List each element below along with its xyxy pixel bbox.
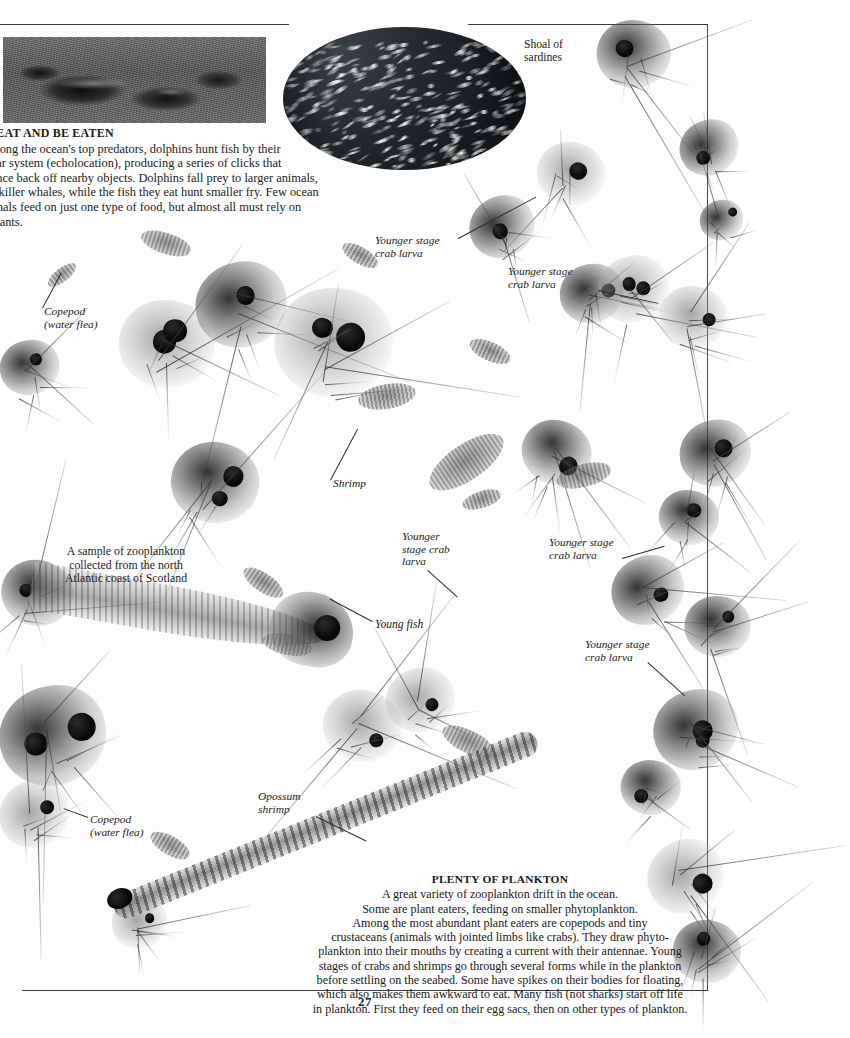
sardine [431, 59, 447, 65]
sardine [339, 107, 354, 114]
sardine [389, 48, 406, 56]
leader-crab-larva-mid [427, 570, 457, 598]
sardine [421, 40, 429, 46]
page-number: 27 [0, 994, 730, 1010]
sardine [480, 80, 491, 88]
sardine [392, 96, 405, 100]
sardine [332, 160, 340, 166]
sample-caption: A sample of zooplankton collected from t… [36, 545, 216, 586]
rule-top-right [468, 24, 708, 25]
plankton-specimen-capsule [461, 323, 519, 381]
sardine [426, 91, 438, 97]
sardine [443, 143, 460, 154]
sardine [371, 128, 387, 135]
sardine [389, 85, 406, 91]
sardine [516, 159, 526, 167]
sardine [487, 86, 498, 92]
sardine [470, 42, 482, 48]
specimen-spine [38, 827, 42, 959]
article-line: unce back off nearby objects. Dolphins f… [0, 171, 330, 186]
sardine [474, 69, 491, 77]
plankton-specimen-capsule [353, 363, 420, 430]
sardine [464, 160, 478, 168]
sardine [512, 98, 526, 108]
sardine [351, 115, 366, 123]
sardine [420, 158, 436, 168]
sardine [334, 111, 350, 117]
sardine [504, 129, 515, 135]
sardine [398, 148, 414, 156]
sardine [492, 113, 506, 119]
sardine [318, 86, 335, 96]
sardine [515, 139, 526, 150]
sardine [290, 113, 298, 117]
label-copepod-top: Copepod (water flea) [44, 305, 97, 330]
sardine [297, 69, 309, 74]
sardine [324, 53, 342, 62]
sardine [306, 106, 321, 115]
sardine [501, 42, 509, 46]
specimen-capsule-body [466, 334, 514, 369]
sardine [449, 102, 466, 112]
sardine [347, 133, 359, 142]
sardine [397, 153, 408, 162]
sardine [500, 87, 515, 98]
sardine [492, 150, 509, 161]
sardine [479, 43, 491, 47]
plenty-line: crustaceans (animals with jointed limbs … [300, 930, 700, 944]
sardine [427, 126, 442, 133]
sardine [460, 41, 475, 50]
sardine [465, 75, 474, 81]
specimen-capsule-body [460, 485, 503, 513]
sardine [334, 72, 349, 81]
sardine [391, 108, 401, 115]
sardine [428, 109, 446, 116]
article-line: e killer whales, while the fish they eat… [0, 185, 330, 200]
specimen-capsule-body [44, 259, 80, 291]
sardine [306, 67, 322, 73]
sardine [368, 122, 377, 128]
sardine [384, 45, 399, 52]
plenty-line: stages of crabs and shrimps go through s… [300, 959, 700, 973]
sardine [454, 154, 471, 161]
sardine [448, 109, 457, 116]
sardine [381, 70, 397, 79]
sardine [430, 92, 443, 101]
sardine [321, 92, 335, 101]
sardine [394, 77, 406, 82]
sardine [495, 126, 509, 131]
sardine [321, 41, 337, 51]
sardine [454, 151, 469, 157]
sardine [444, 70, 459, 76]
article-line: mong the ocean's top predators, dolphins… [0, 142, 330, 157]
sardine [460, 108, 471, 114]
sardine [286, 118, 298, 125]
sardine [404, 74, 416, 81]
sardine [506, 140, 521, 151]
sardine [422, 90, 435, 97]
sardine [294, 115, 307, 123]
label-shoal-of-sardines: Shoal of sardines [524, 38, 563, 64]
sardine [470, 139, 487, 146]
sardine [492, 54, 507, 64]
label-young-fish: Young fish [375, 618, 423, 631]
sardine [398, 42, 409, 47]
sardine [504, 150, 512, 154]
sardine [517, 128, 526, 138]
sardine [456, 80, 473, 88]
sardine [432, 103, 449, 112]
sardine [302, 53, 310, 59]
sardine [476, 151, 491, 162]
sardine [344, 149, 362, 157]
sardine [445, 162, 452, 165]
sardine [503, 110, 515, 116]
sardine [415, 104, 423, 109]
sardine [359, 85, 372, 92]
sardine [414, 114, 421, 120]
label-opossum-shrimp: Opossum shrimp [258, 790, 300, 815]
sardine [367, 162, 384, 169]
sardine [467, 109, 483, 120]
sardine [395, 86, 404, 92]
sardine [301, 42, 310, 46]
label-crab-larva-upper-left: Younger stage crab larva [375, 234, 439, 259]
